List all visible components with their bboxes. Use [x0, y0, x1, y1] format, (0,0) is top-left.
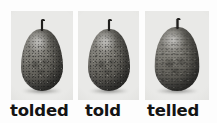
pear-photograph — [88, 29, 130, 91]
panel-caption-tolded: tolded — [10, 100, 69, 121]
pear-stem-icon — [41, 20, 43, 31]
photo-panel-row — [0, 0, 217, 101]
pear-photograph — [155, 27, 200, 91]
photo-panel-telled — [145, 11, 209, 100]
pear-body — [21, 29, 63, 91]
pear-contact-shadow — [22, 88, 62, 94]
pear-photograph — [21, 29, 63, 91]
pear-contact-shadow — [156, 88, 199, 94]
panel-caption-telled: telled — [147, 100, 199, 121]
pear-stem-icon — [108, 20, 110, 31]
pear-contact-shadow — [89, 88, 129, 94]
pear-body — [88, 29, 130, 91]
pear-stem-hook-icon — [176, 18, 180, 20]
pear-stem-hook-icon — [108, 19, 112, 21]
three-panel-pear-figure: tolded told telled — [0, 0, 217, 123]
photo-panel-tolded — [11, 11, 73, 100]
pear-stem-hook-icon — [41, 19, 45, 21]
caption-row: tolded told telled — [0, 100, 217, 123]
pear-blotch — [163, 55, 192, 77]
pear-body — [155, 27, 200, 91]
photo-panel-told — [78, 11, 139, 100]
panel-caption-told: told — [85, 100, 121, 121]
pear-stem-icon — [176, 19, 178, 29]
